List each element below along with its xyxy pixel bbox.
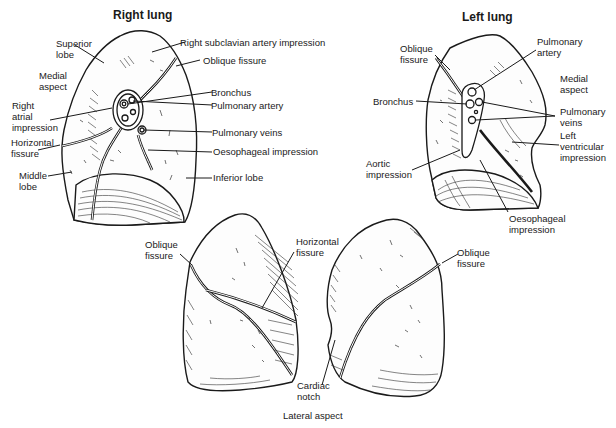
label-right-atrial-impression: Right atrial impression <box>12 100 58 133</box>
label-oblique-fissure-left: Oblique fissure <box>400 43 433 65</box>
label-pulmonary-veins-right: Pulmonary veins <box>212 127 282 138</box>
lateral-aspect-caption: Lateral aspect <box>283 410 343 421</box>
label-aortic-impression: Aortic impression <box>366 158 412 180</box>
label-middle-lobe: Middle lobe <box>19 170 47 192</box>
label-pulmonary-artery-right: Pulmonary artery <box>211 100 283 111</box>
label-bronchus-right: Bronchus <box>211 87 251 98</box>
right-lung-lateral-outline <box>183 214 298 391</box>
label-oesophageal-impression-left: Oesophageal impression <box>509 213 566 235</box>
label-bronchus-left: Bronchus <box>373 96 413 107</box>
label-horizontal-fissure-right: Horizontal fissure <box>11 137 54 159</box>
label-horizontal-fissure-lateral: Horizontal fissure <box>296 236 339 258</box>
label-inferior-lobe: Inferior lobe <box>213 172 263 183</box>
label-pulmonary-artery-left: Pulmonary artery <box>537 36 582 58</box>
lung-anatomy-figure: Right lung Left lung Superior lobe Media… <box>0 0 616 428</box>
left-lung-lateral-outline <box>327 219 444 396</box>
label-cardiac-notch: Cardiac notch <box>297 380 330 402</box>
left-lung-lateral-drawing <box>327 219 444 396</box>
label-right-subclavian-artery-impression: Right subclavian artery impression <box>180 37 325 48</box>
label-oblique-fissure-lateral-right: Oblique fissure <box>145 239 178 261</box>
left-pulmonary-vein-shape <box>469 117 476 124</box>
left-lung-title: Left lung <box>462 10 513 24</box>
left-bronchus-shape <box>466 100 474 108</box>
label-superior-lobe: Superior lobe <box>56 38 92 60</box>
right-lung-title: Right lung <box>113 8 172 22</box>
label-medial-aspect-left: Medial aspect <box>560 73 588 95</box>
label-medial-aspect-right: Medial aspect <box>39 70 67 92</box>
label-oblique-fissure-lateral-left: Oblique fissure <box>457 247 490 269</box>
left-lung-medial-drawing <box>426 35 546 210</box>
right-lung-lateral-drawing <box>183 214 298 391</box>
label-oesophageal-impression-right: Oesophageal impression <box>213 146 318 157</box>
label-pulmonary-veins-left: Pulmonary veins <box>560 106 605 128</box>
label-oblique-fissure-right: Oblique fissure <box>203 55 266 66</box>
label-left-ventricular-impression: Left ventricular impression <box>560 130 606 163</box>
